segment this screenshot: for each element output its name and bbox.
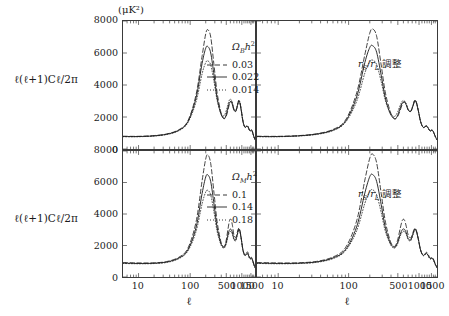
units-label: (μK²) [118,4,144,15]
plot-area-bottom-right [257,151,437,277]
legend-value: 0.18 [232,214,253,227]
legend-value: 0.014 [232,84,259,97]
y-tick-label: 2000 [84,240,118,251]
legend-value: 0.03 [232,59,253,72]
legend-title-omega-m: ΩMh2 [232,168,257,188]
legend-row: 0.14 [206,201,257,214]
cmb-power-spectrum-figure: (μK²) ℓ(ℓ+1)Cℓ/2π ℓ(ℓ+1)Cℓ/2π 0200040006… [0,0,449,316]
x-axis-label-right: ℓ [344,295,349,308]
series-line-solid [257,174,437,267]
series-line-solid [257,45,437,139]
x-axis-label-left: ℓ [186,295,191,308]
y-axis-label-top: ℓ(ℓ+1)Cℓ/2π [14,73,78,85]
y-tick-label: 0 [84,272,118,283]
dotted-line-key-icon [206,85,228,95]
series-line-dotted [257,60,437,140]
series-line-dashed [257,29,437,140]
legend-title-omega-b: ΩBh2 [232,38,259,58]
legend-row: 0.03 [206,59,259,72]
legend-value: 0.1 [232,189,247,202]
legend-row: 0.18 [206,214,257,227]
x-tick-label: 10 [271,280,283,291]
x-tick-label: 100 [340,280,358,291]
solid-line-key-icon [206,202,228,212]
panel-bottom-right [256,150,438,278]
y-tick-label: 6000 [84,176,118,187]
legend-value: 0.14 [232,201,253,214]
dashed-line-key-icon [206,190,228,200]
x-tick-label: 1500 [420,280,444,291]
legend-value: 0.022 [232,71,259,84]
annotation-jp-text-top: 調整 [382,58,402,69]
legend-baryon-density: ΩBh2 0.03 0.022 0.014 [206,38,259,96]
legend-matter-density: ΩMh2 0.1 0.14 0.18 [206,168,257,226]
y-tick-label: 8000 [84,144,118,155]
y-tick-label: 2000 [84,112,118,123]
legend-row: 0.014 [206,84,259,97]
dashed-line-key-icon [206,60,228,70]
y-tick-label: 6000 [84,47,118,58]
annotation-rs-rl-bottom: rS/rL 調整 [358,186,402,202]
plot-area-top-right [257,21,437,149]
y-tick-label: 4000 [84,208,118,219]
panel-top-right [256,20,438,150]
annotation-jp-text-bottom: 調整 [382,188,402,199]
y-axis-label-bottom: ℓ(ℓ+1)Cℓ/2π [14,212,78,224]
annotation-rs-rl-top: rS/rL 調整 [358,56,402,72]
legend-row: 0.022 [206,71,259,84]
series-line-dashed [257,154,437,267]
y-tick-label: 8000 [84,14,118,25]
dotted-line-key-icon [206,215,228,225]
x-tick-label: 500 [389,280,407,291]
legend-row: 0.1 [206,189,257,202]
x-tick-label: 1500 [240,280,264,291]
x-tick-label: 100 [181,280,199,291]
y-tick-label: 4000 [84,79,118,90]
solid-line-key-icon [206,72,228,82]
series-line-dotted [257,190,437,268]
x-tick-label: 10 [132,280,144,291]
